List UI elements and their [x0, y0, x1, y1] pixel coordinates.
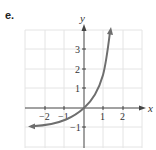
x-tick-label: 1 — [100, 111, 105, 122]
y-tick-label: 1 — [75, 83, 80, 94]
x-tick-label: 2 — [120, 111, 125, 122]
y-tick-label: 3 — [75, 44, 80, 55]
chart: x y −2 −1 1 2 −1 1 2 3 — [0, 0, 156, 150]
curve-left-arrow-icon — [28, 124, 35, 130]
curve-top-arrow-icon — [107, 27, 113, 35]
y-axis-label: y — [79, 12, 85, 24]
y-axis-arrow-icon — [82, 24, 87, 31]
x-tick-label: −2 — [39, 111, 50, 122]
y-tick-label: 2 — [75, 64, 80, 75]
x-axis-label: x — [147, 102, 153, 114]
y-tick-label: −1 — [70, 122, 81, 133]
